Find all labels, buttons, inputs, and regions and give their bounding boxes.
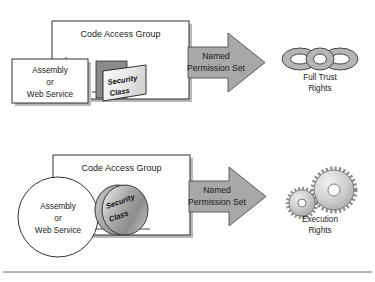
execution-rights-label-line2: Rights bbox=[308, 226, 331, 235]
assembly-label-line3-1: Web Service bbox=[27, 90, 74, 99]
assembly-label-line3-2: Web Service bbox=[35, 226, 82, 235]
assembly-label-line2-1: or bbox=[46, 78, 54, 87]
code-access-group-label-2: Code Access Group bbox=[81, 163, 161, 173]
execution-rights-label-line1: Execution bbox=[302, 215, 338, 224]
assembly-label-line1-2: Assembly bbox=[40, 202, 76, 211]
full-trust-label-line2: Rights bbox=[308, 84, 331, 93]
arrow-label-line1-2: Named bbox=[203, 185, 231, 195]
arrow-label-line2-1: Permission Set bbox=[187, 63, 245, 73]
full-trust-label-line1: Full Trust bbox=[303, 73, 337, 82]
chain-links-icon bbox=[282, 48, 358, 70]
assembly-label-line1-1: Assembly bbox=[32, 66, 68, 75]
code-access-security-diagram: Code Access Group Assembly or Web Servic… bbox=[0, 0, 375, 282]
assembly-label-line2-2: or bbox=[54, 214, 62, 223]
arrow-label-line2-2: Permission Set bbox=[188, 197, 246, 207]
code-access-group-label-1: Code Access Group bbox=[80, 29, 160, 39]
arrow-label-line1-1: Named bbox=[202, 51, 230, 61]
